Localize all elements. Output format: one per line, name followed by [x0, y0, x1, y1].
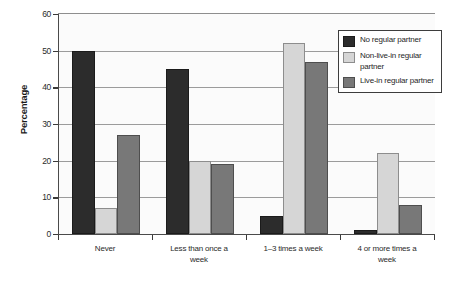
legend-item: Live-in regular partner: [343, 76, 437, 88]
legend-item-label-line: partner: [360, 62, 422, 73]
x-tick-mark-1: [152, 235, 153, 240]
legend-item-label-line: No regular partner: [360, 35, 421, 46]
gridline-30: [59, 124, 435, 125]
bar-chart: Percentage 0102030405060 NeverLess than …: [0, 0, 459, 282]
legend-item-label: Live-in regular partner: [360, 76, 434, 87]
x-tick-mark-0: [58, 235, 59, 240]
bar: [283, 43, 306, 234]
bar: [260, 216, 283, 234]
legend-item: No regular partner: [343, 35, 437, 47]
x-tick-label-line: Never: [58, 243, 152, 254]
chart-legend: No regular partnerNon-live-in regularpar…: [338, 30, 442, 93]
x-tick-mark-4: [434, 235, 435, 240]
y-tick-label-20: 20: [29, 156, 51, 166]
bar: [305, 62, 328, 234]
bar: [377, 153, 400, 234]
legend-swatch-icon: [343, 52, 355, 63]
legend-swatch-icon: [343, 77, 355, 88]
x-tick-label-1: Less than once aweek: [152, 243, 246, 265]
bar: [211, 164, 234, 234]
bar: [354, 230, 377, 234]
bar: [399, 205, 422, 234]
y-tick-0: 0: [0, 229, 51, 239]
legend-item-label: No regular partner: [360, 35, 421, 46]
y-tick-label-40: 40: [29, 82, 51, 92]
y-tick-20: 20: [0, 156, 51, 166]
legend-swatch-icon: [343, 36, 355, 47]
y-tick-10: 10: [0, 192, 51, 202]
y-tick-40: 40: [0, 82, 51, 92]
bar: [189, 161, 212, 234]
legend-item: Non-live-in regularpartner: [343, 51, 437, 72]
x-tick-label-3: 4 or more times aweek: [340, 243, 434, 265]
bar: [72, 51, 95, 234]
x-tick-label-line: week: [152, 254, 246, 265]
x-tick-label-0: Never: [58, 243, 152, 254]
legend-item-label-line: Live-in regular partner: [360, 76, 434, 87]
y-tick-label-50: 50: [29, 46, 51, 56]
x-tick-label-line: 1–3 times a week: [246, 243, 340, 254]
y-tick-label-60: 60: [29, 9, 51, 19]
legend-item-label: Non-live-in regularpartner: [360, 51, 422, 72]
bar: [95, 208, 118, 234]
x-tick-mark-3: [340, 235, 341, 240]
y-tick-label-10: 10: [29, 192, 51, 202]
y-tick-30: 30: [0, 119, 51, 129]
x-tick-mark-2: [246, 235, 247, 240]
x-tick-label-line: week: [340, 254, 434, 265]
y-tick-label-0: 0: [29, 229, 51, 239]
x-tick-label-line: Less than once a: [152, 243, 246, 254]
bar: [117, 135, 140, 234]
x-tick-label-line: 4 or more times a: [340, 243, 434, 254]
y-tick-label-30: 30: [29, 119, 51, 129]
y-tick-50: 50: [0, 46, 51, 56]
bar: [166, 69, 189, 234]
x-tick-label-2: 1–3 times a week: [246, 243, 340, 254]
legend-item-label-line: Non-live-in regular: [360, 51, 422, 62]
y-tick-60: 60: [0, 9, 51, 19]
